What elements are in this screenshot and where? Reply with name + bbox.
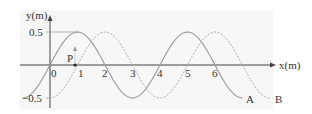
y-axis-label: y(m): [26, 9, 48, 22]
y-axis-arrow-icon: [48, 15, 53, 21]
point-p-label: P: [67, 52, 73, 64]
curve-a-label: A: [246, 93, 254, 105]
x-tick-2: 2: [102, 67, 108, 79]
x-axis-arrow-icon: [270, 63, 276, 68]
curve-b-label: B: [275, 93, 282, 105]
x-tick-4: 4: [157, 67, 163, 79]
x-tick-3: 3: [130, 67, 136, 79]
point-p-arrow-icon: [73, 46, 77, 51]
x-axis-label: x(m): [279, 59, 301, 72]
x-tick-1: 1: [78, 67, 84, 79]
wave-chart: y(m) 0.5 −0.5 0 1 2 3 4 5 6 P x(m) A B: [0, 0, 312, 114]
y-tick-neg: −0.5: [22, 92, 42, 104]
x-tick-6: 6: [212, 67, 218, 79]
x-tick-0: 0: [51, 67, 57, 79]
x-tick-5: 5: [185, 67, 191, 79]
y-tick-pos: 0.5: [29, 26, 43, 38]
